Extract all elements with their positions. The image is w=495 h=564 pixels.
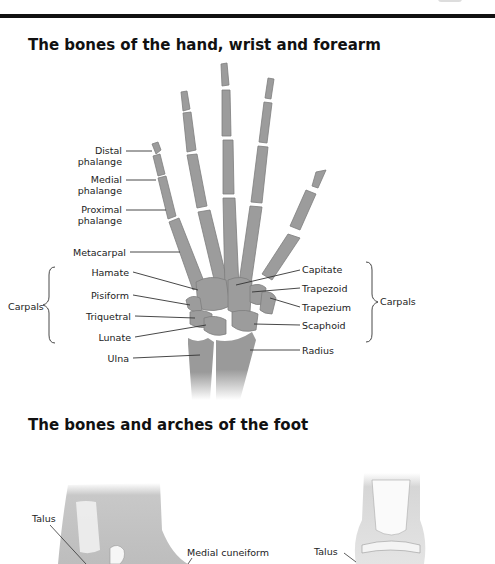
label-talus-front: Talus <box>314 546 338 557</box>
foot-skeleton-illustration <box>0 0 495 564</box>
label-medial-cuneiform: Medial cuneiform <box>187 547 269 558</box>
label-talus-side: Talus <box>32 513 56 524</box>
